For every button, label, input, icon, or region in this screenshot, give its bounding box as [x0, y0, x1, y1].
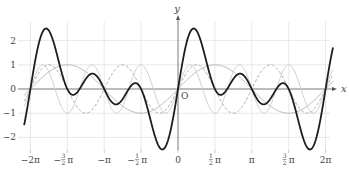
- svg-text:2: 2: [61, 159, 65, 166]
- x-tick-label: 32π: [283, 152, 295, 166]
- svg-text:π: π: [289, 155, 295, 165]
- y-axis-title: y: [173, 3, 180, 14]
- x-tick-label: −2π: [21, 155, 40, 165]
- svg-text:π: π: [215, 155, 221, 165]
- svg-text:−: −: [54, 155, 62, 165]
- svg-text:3: 3: [61, 152, 65, 159]
- svg-text:1: 1: [135, 152, 139, 159]
- svg-text:−: −: [127, 155, 135, 165]
- x-tick-label: −12π: [127, 152, 147, 166]
- x-tick-label: 12π: [209, 152, 221, 166]
- svg-text:2: 2: [209, 159, 213, 166]
- y-tick-label: −1: [3, 108, 16, 118]
- svg-text:3: 3: [283, 152, 287, 159]
- svg-text:2: 2: [135, 159, 139, 166]
- x-tick-label: 2π: [320, 155, 332, 165]
- x-tick-label: π: [249, 155, 255, 165]
- svg-text:π: π: [67, 155, 73, 165]
- tick-labels: −2π−32π−π−12π012ππ32π2π210−1−2xyO: [3, 3, 347, 166]
- x-tick-label: 0: [175, 155, 181, 165]
- svg-text:1: 1: [209, 152, 213, 159]
- y-tick-label: 2: [10, 36, 16, 46]
- svg-text:2: 2: [283, 159, 287, 166]
- function-plot: −2π−32π−π−12π012ππ32π2π210−1−2xyO: [0, 0, 349, 183]
- origin-label: O: [181, 91, 188, 101]
- x-tick-label: −π: [97, 155, 111, 165]
- svg-text:π: π: [141, 155, 147, 165]
- x-tick-label: −32π: [54, 152, 74, 166]
- y-tick-label: −2: [3, 132, 16, 142]
- x-axis-arrow-icon: [332, 87, 337, 91]
- y-tick-label: 0: [10, 84, 16, 94]
- x-axis-title: x: [341, 83, 347, 94]
- grid-lines: [18, 22, 330, 150]
- y-tick-label: 1: [10, 60, 16, 70]
- y-axis-arrow-icon: [176, 15, 180, 20]
